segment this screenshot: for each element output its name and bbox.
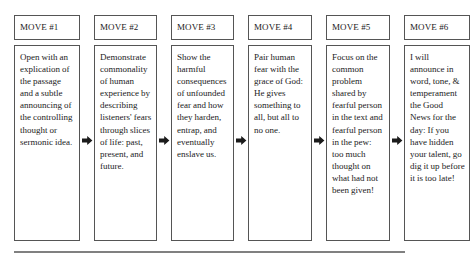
move-column-1: MOVE #1 Open with an explication of the … (14, 15, 80, 241)
move-body-6: I will announce in word, tone, & tempera… (404, 45, 470, 241)
connector-1-2 (80, 15, 94, 241)
move-body-1: Open with an explication of the passage … (14, 45, 80, 241)
connector-4-5 (312, 15, 326, 241)
move-column-5: MOVE #5 Focus on the common problem shar… (326, 15, 390, 241)
connector-2-3 (157, 15, 171, 241)
move-body-5: Focus on the common problem shared by fe… (326, 45, 390, 241)
move-column-2: MOVE #2 Demonstrate commonality of human… (94, 15, 157, 241)
connector-5-6 (390, 15, 404, 241)
move-column-6: MOVE #6 I will announce in word, tone, &… (404, 15, 470, 241)
move-column-3: MOVE #3 Show the harmful consequences of… (171, 15, 234, 241)
right-arrow-icon (392, 135, 403, 146)
move-header-3: MOVE #3 (171, 15, 234, 40)
right-arrow-icon (314, 135, 325, 146)
move-column-4: MOVE #4 Pair human fear with the grace o… (248, 15, 312, 241)
move-header-6: MOVE #6 (404, 15, 470, 40)
move-body-4: Pair human fear with the grace of God: H… (248, 45, 312, 241)
right-arrow-icon (82, 135, 93, 146)
move-header-4: MOVE #4 (248, 15, 312, 40)
right-arrow-icon (159, 135, 170, 146)
move-body-3: Show the harmful consequences of unfound… (171, 45, 234, 241)
move-body-2: Demonstrate commonality of human experie… (94, 45, 157, 241)
move-header-5: MOVE #5 (326, 15, 390, 40)
moves-row: MOVE #1 Open with an explication of the … (14, 15, 406, 241)
move-header-1: MOVE #1 (14, 15, 80, 40)
connector-3-4 (234, 15, 248, 241)
bottom-divider (14, 251, 405, 253)
right-arrow-icon (236, 135, 247, 146)
move-header-2: MOVE #2 (94, 15, 157, 40)
